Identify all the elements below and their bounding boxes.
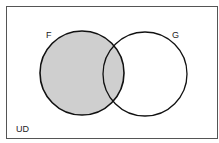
set-f-label: F [46, 30, 52, 40]
set-g-label: G [172, 30, 179, 40]
venn-diagram: F G UD [0, 0, 219, 143]
universe-label: UD [16, 124, 29, 134]
